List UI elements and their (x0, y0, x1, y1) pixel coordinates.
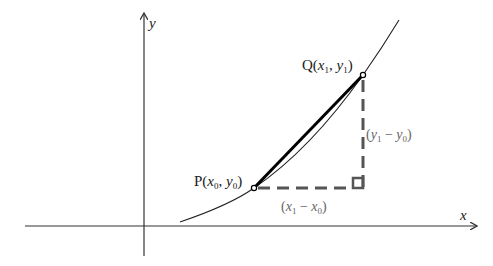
secant-line (254, 75, 363, 188)
rise-label: (y1 − y0) (366, 127, 412, 144)
point-p-label: P(x0, y0) (194, 173, 242, 191)
point-q (360, 72, 365, 77)
run-label: (x1 − x0) (281, 199, 327, 216)
function-curve (180, 20, 399, 222)
point-p (251, 185, 256, 190)
x-axis-label: x (459, 207, 467, 223)
y-axis-label: y (147, 15, 156, 31)
secant-diagram: y x Q(x1, y1) P(x0, y0) (x1 − x0) (y1 − … (0, 0, 493, 266)
point-q-label: Q(x1, y1) (302, 57, 353, 75)
